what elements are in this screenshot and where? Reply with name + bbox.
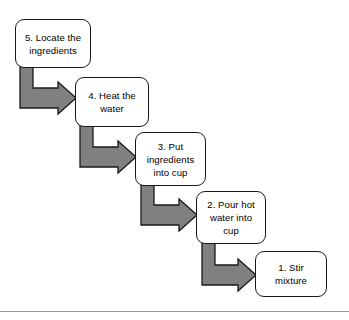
flow-node-label: 4. Heat the water [84,89,139,115]
flow-arrow-arrow-5-to-4 [20,66,76,114]
flow-arrow-arrow-2-to-1 [202,242,256,291]
flow-node-step-3[interactable]: 3. Put ingredients into cup [135,132,206,186]
flow-node-label: 3. Put ingredients into cup [143,140,198,179]
flow-arrow-arrow-4-to-3 [80,125,136,173]
flow-node-step-4[interactable]: 4. Heat the water [75,77,149,127]
footer-divider [0,311,349,312]
flow-node-step-2[interactable]: 2. Pour hot water into cup [196,191,266,244]
flow-node-label: 5. Locate the ingredients [21,31,85,57]
flow-node-step-1[interactable]: 1. Stir mixture [255,251,327,297]
flow-arrow-arrow-3-to-2 [141,184,197,231]
flowchart-canvas: 5. Locate the ingredients4. Heat the wat… [0,0,349,320]
flow-node-step-5[interactable]: 5. Locate the ingredients [15,19,91,68]
flow-node-label: 1. Stir mixture [271,261,311,287]
flow-node-label: 2. Pour hot water into cup [203,198,258,237]
